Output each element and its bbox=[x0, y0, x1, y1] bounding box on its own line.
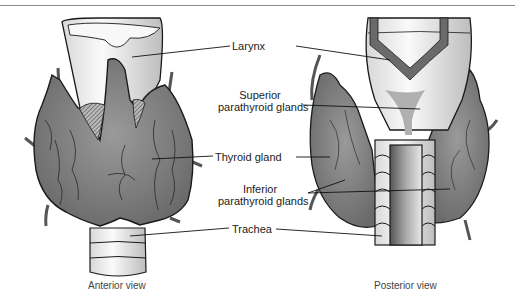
label-inferior-line1: Inferior bbox=[218, 183, 302, 195]
anterior-view bbox=[25, 18, 202, 276]
label-inferior-parathyroid: Inferior parathyroid glands bbox=[218, 183, 302, 207]
label-trachea: Trachea bbox=[232, 223, 272, 235]
caption-anterior-view: Anterior view bbox=[88, 280, 146, 291]
label-inferior-line2: parathyroid glands bbox=[218, 195, 302, 207]
label-thyroid-gland: Thyroid gland bbox=[215, 151, 282, 163]
label-superior-line2: parathyroid glands bbox=[218, 101, 302, 113]
label-larynx: Larynx bbox=[232, 40, 265, 52]
label-superior-line1: Superior bbox=[218, 89, 302, 101]
caption-posterior-view: Posterior view bbox=[374, 280, 437, 291]
label-superior-parathyroid: Superior parathyroid glands bbox=[218, 89, 302, 113]
